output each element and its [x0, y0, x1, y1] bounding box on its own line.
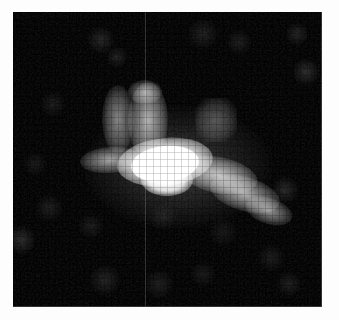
background-clump	[208, 217, 238, 247]
upper-lobe-right	[128, 82, 168, 158]
bright-core-outer	[115, 133, 215, 191]
tail-segment-upper	[175, 150, 260, 201]
background-clump	[40, 91, 66, 117]
tail-segment-mid	[206, 168, 285, 221]
pixel-grid-overlay	[13, 12, 322, 307]
secondary-source-blob	[195, 98, 237, 142]
background-clump	[87, 26, 115, 54]
background-clump	[190, 261, 216, 287]
background-clump	[23, 152, 47, 176]
vertical-scan-line-artifact	[145, 12, 146, 307]
background-clump	[13, 225, 36, 255]
background-clump	[35, 194, 63, 222]
background-clump	[285, 22, 309, 46]
background-clump	[271, 176, 299, 204]
background-clump	[187, 18, 219, 50]
background-clump	[276, 271, 302, 297]
halo-glow	[83, 105, 273, 229]
tail-segment-end	[242, 191, 296, 231]
background-clump	[149, 203, 177, 231]
figure-page	[0, 0, 339, 320]
core-left-arm	[79, 145, 141, 175]
background-clump	[257, 244, 285, 272]
upper-lobe-left	[102, 85, 134, 153]
noise-texture-overlay	[13, 12, 322, 307]
background-clump	[89, 264, 121, 296]
background-clump	[144, 269, 174, 299]
background-clump	[106, 46, 128, 68]
background-clump	[78, 213, 104, 239]
background-clump	[292, 58, 320, 86]
upper-lobe-cap	[128, 80, 162, 104]
bright-core-lower-lobe	[141, 164, 193, 196]
astronomical-image-panel	[13, 12, 322, 307]
background-clump	[226, 29, 252, 55]
bright-core-peak	[129, 143, 200, 186]
